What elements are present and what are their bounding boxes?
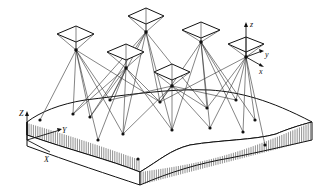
- camera-frames: [57, 8, 264, 88]
- ground-point: [205, 106, 208, 109]
- projection-center: [74, 48, 78, 52]
- projection-center: [144, 30, 148, 34]
- ground-point: [263, 143, 266, 146]
- ground-point: [170, 128, 173, 131]
- z-axis-label: Z: [19, 109, 24, 118]
- camera-station: [128, 8, 164, 34]
- projection-center: [124, 66, 128, 70]
- photogrammetry-block-diagram: Z Y X z y x: [0, 0, 331, 194]
- camera-z-label: z: [249, 20, 254, 29]
- x-axis-label: X: [43, 155, 50, 164]
- camera-station: [57, 26, 94, 52]
- camera-y-label: y: [264, 50, 269, 59]
- ground-point: [88, 115, 91, 118]
- camera-z-arrowhead-icon: [244, 22, 248, 27]
- ray-line: [76, 50, 160, 102]
- z-arrowhead-icon: [25, 111, 29, 116]
- ground-point: [158, 100, 161, 103]
- ground-point: [253, 118, 256, 121]
- camera-x-label: x: [258, 67, 263, 76]
- camera-y-arrowhead-icon: [259, 49, 264, 53]
- camera-station: [154, 64, 190, 88]
- ground-point: [234, 98, 237, 101]
- ground-point: [136, 157, 139, 160]
- projection-center: [170, 84, 174, 88]
- ground-point: [96, 138, 99, 141]
- ground-point: [241, 130, 244, 133]
- terrain-block: [27, 90, 312, 185]
- image-frame: [57, 26, 94, 42]
- camera-y-axis: [246, 51, 262, 57]
- camera-station: [182, 22, 220, 44]
- projection-center: [199, 40, 203, 44]
- ground-point: [108, 98, 111, 101]
- ground-point: [121, 132, 124, 135]
- ground-point: [208, 126, 211, 129]
- ground-point: [38, 118, 41, 121]
- ground-point: [71, 112, 74, 115]
